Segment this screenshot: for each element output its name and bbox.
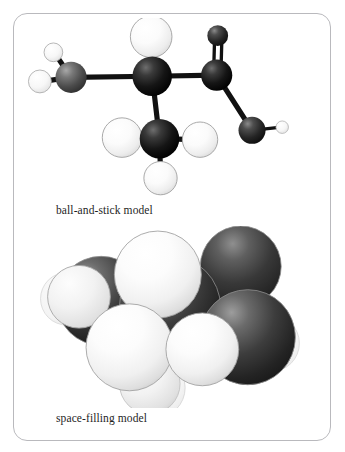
atom-h2 <box>28 70 51 93</box>
ball-and-stick-stage <box>14 18 330 200</box>
caption-space-filling: space-filling model <box>56 412 147 424</box>
panel-ball-and-stick: ball-and-stick model <box>14 18 330 226</box>
ball-and-stick-molecule-diagram <box>14 18 332 200</box>
sphere-hydrogen-low-left <box>86 304 173 391</box>
atom-c4-carbonyl-carbon <box>201 60 232 91</box>
atom-h6 <box>144 162 177 195</box>
atom-o2-hydroxyl-oxygen <box>239 117 266 144</box>
atom-h4 <box>102 118 142 158</box>
atom-h3 <box>130 18 172 58</box>
figure-card: ball-and-stick model <box>13 13 331 441</box>
atom-c1-methyl-carbon <box>55 62 86 93</box>
space-filling-stage <box>14 226 330 408</box>
panel-space-filling: space-filling model <box>14 226 330 440</box>
space-filling-molecule-diagram <box>14 226 332 408</box>
atom-h7 <box>276 121 288 133</box>
atom-c2-central-carbon <box>132 56 172 96</box>
caption-ball-and-stick: ball-and-stick model <box>56 204 153 216</box>
atom-h1 <box>44 43 63 62</box>
atom-c3-methyl-carbon <box>140 119 180 159</box>
atom-h5 <box>182 122 217 157</box>
sphere-hydrogen-low-right <box>166 313 239 386</box>
atom-o1-carbonyl-oxygen <box>207 25 228 46</box>
